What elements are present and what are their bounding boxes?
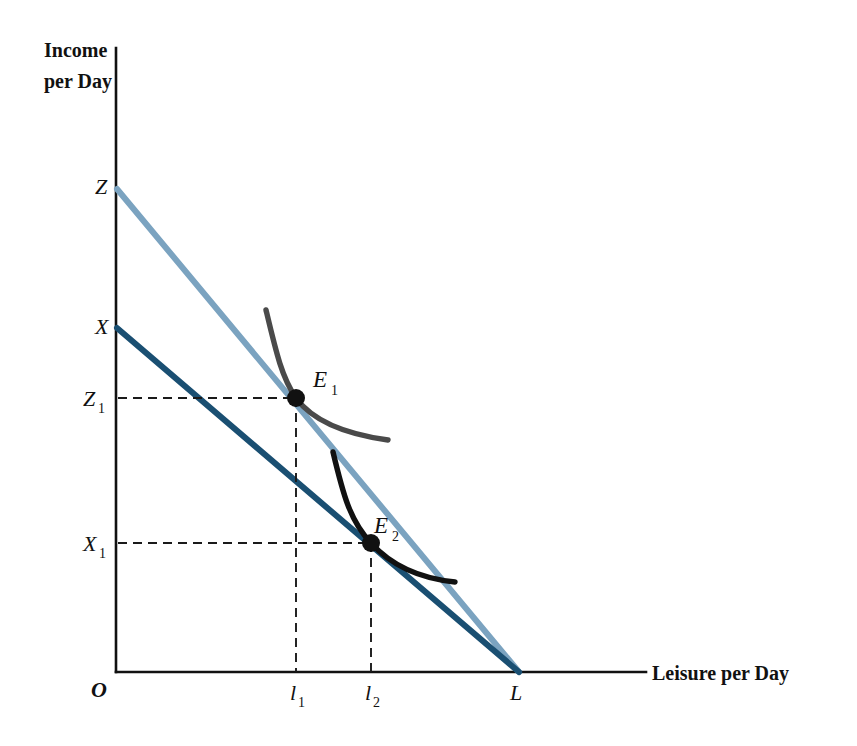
y-label-income-z1-sub: 1 <box>98 401 105 416</box>
equilibrium-label-e1-sub: 1 <box>331 383 338 398</box>
x-label-total-time-L: L <box>509 680 522 705</box>
y-axis-title-line1: Income <box>44 39 107 61</box>
x-axis-title: Leisure per Day <box>652 662 789 685</box>
equilibrium-label-e2-sub: 2 <box>392 529 399 544</box>
y-axis-title-line2: per Day <box>44 70 112 93</box>
y-label-income-z1-base: Z <box>83 386 96 411</box>
equilibrium-label-e1: E 1 <box>312 367 338 398</box>
origin-label: O <box>91 677 107 702</box>
equilibrium-label-e1-base: E <box>312 367 327 392</box>
y-label-income-z1: Z 1 <box>83 386 105 416</box>
y-label-income-x1-sub: 1 <box>99 546 106 561</box>
equilibrium-point-e1 <box>287 389 305 407</box>
y-label-intercept-z: Z <box>95 174 108 199</box>
y-label-intercept-x: X <box>94 314 110 339</box>
x-label-leisure-l2: l 2 <box>365 680 380 710</box>
x-label-leisure-l1-base: l <box>290 680 296 705</box>
x-label-leisure-l2-sub: 2 <box>373 695 380 710</box>
axis-group <box>116 48 646 672</box>
budget-line-high-wage <box>117 189 519 672</box>
x-label-leisure-l2-base: l <box>365 680 371 705</box>
income-leisure-figure: Income per Day Leisure per Day O Z X Z 1… <box>0 0 857 746</box>
x-label-leisure-l1: l 1 <box>290 680 305 710</box>
x-label-leisure-l1-sub: 1 <box>298 695 305 710</box>
figure-canvas: Income per Day Leisure per Day O Z X Z 1… <box>0 0 857 746</box>
y-label-income-x1: X 1 <box>82 531 106 561</box>
y-label-income-x1-base: X <box>82 531 98 556</box>
y-axis-title: Income per Day <box>44 39 112 93</box>
equilibrium-label-e2-base: E <box>373 513 388 538</box>
